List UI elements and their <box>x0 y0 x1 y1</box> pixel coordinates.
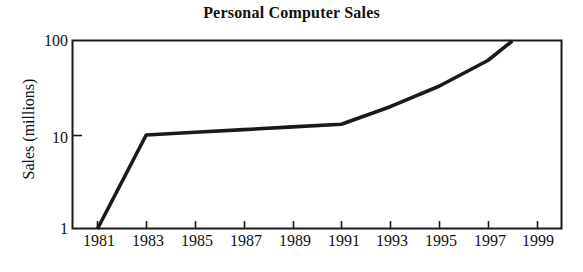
data-series-line <box>97 41 512 229</box>
plot-area <box>0 0 583 272</box>
chart-figure: Personal Computer Sales Sales (millions)… <box>0 0 583 272</box>
